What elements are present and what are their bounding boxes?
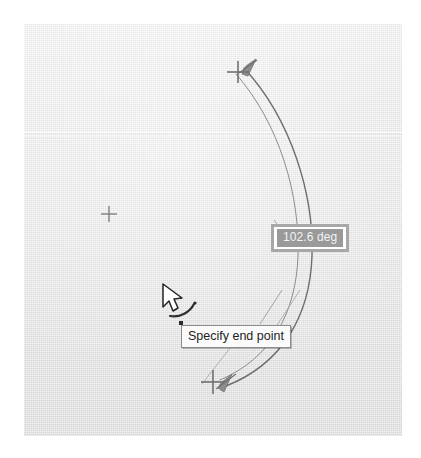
screenshot-root: 102.6 deg Specify end point [0, 0, 421, 458]
arc-start-node[interactable] [227, 61, 249, 83]
arc-center-node[interactable] [101, 206, 117, 222]
arc-direction-arrow-bottom [218, 374, 232, 392]
arc-tool-cursor [163, 284, 197, 316]
rubber-band-line-lower [260, 290, 282, 324]
prompt-anchor-point [179, 321, 183, 325]
angle-dimension-input[interactable]: 102.6 deg [271, 224, 349, 252]
arrow-pointer-icon [163, 284, 182, 311]
angle-input-inner-frame: 102.6 deg [274, 227, 346, 249]
arc-badge-endpoint-icon [193, 301, 196, 304]
angle-input-value[interactable]: 102.6 deg [277, 229, 343, 247]
command-prompt-tooltip: Specify end point [181, 325, 291, 348]
